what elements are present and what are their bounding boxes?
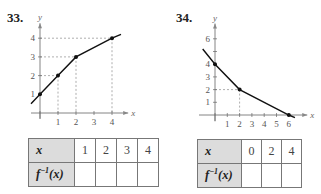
chart33-data-point bbox=[74, 55, 78, 59]
chart33-data-point bbox=[38, 92, 42, 96]
arg-label: (x) bbox=[49, 168, 64, 182]
chart34-x-arrow-icon bbox=[302, 113, 307, 117]
chart34-y-tick-label: 3 bbox=[206, 72, 211, 82]
row-label-inverse: f−1(x) bbox=[198, 164, 242, 188]
chart34-y-arrow-icon bbox=[213, 24, 217, 29]
chart34-y-tick-label: 2 bbox=[206, 85, 211, 95]
chart33-data-point bbox=[56, 74, 60, 78]
chart34-function-line bbox=[203, 49, 295, 118]
chart34-y-tick-label: 1 bbox=[206, 97, 211, 107]
inverse-cell[interactable] bbox=[242, 164, 262, 188]
chart33-y-tick-label: 1 bbox=[31, 89, 36, 99]
chart34-data-point bbox=[287, 113, 291, 117]
inverse-cell[interactable] bbox=[96, 163, 117, 187]
row-label-x: x bbox=[29, 139, 75, 163]
chart33-x-axis-label: x bbox=[130, 108, 135, 118]
x-cell: 4 bbox=[282, 140, 302, 164]
chart33-x-tick-label: 2 bbox=[74, 117, 79, 127]
table-row-inverse: f−1(x) bbox=[29, 163, 159, 187]
x-cell: 2 bbox=[96, 139, 117, 163]
chart34-data-point bbox=[238, 88, 242, 92]
chart33-x-arrow-icon bbox=[123, 111, 128, 115]
chart34-y-axis-label: y bbox=[212, 13, 217, 23]
row-label-inverse: f−1(x) bbox=[29, 163, 75, 187]
table-34: x 0 2 4 f−1(x) bbox=[197, 139, 302, 188]
chart33-y-tick-label: 3 bbox=[31, 52, 36, 62]
row-label-x: x bbox=[198, 140, 242, 164]
chart34-x-tick-label: 2 bbox=[237, 119, 242, 129]
arg-label: (x) bbox=[218, 169, 233, 183]
inverse-sup: −1 bbox=[40, 166, 49, 175]
chart34-y-tick-label: 6 bbox=[206, 34, 211, 44]
inverse-cell[interactable] bbox=[282, 164, 302, 188]
x-cell: 2 bbox=[262, 140, 282, 164]
chart34-x-tick-label: 3 bbox=[250, 119, 255, 129]
x-cell: 1 bbox=[75, 139, 96, 163]
chart34-x-tick-label: 6 bbox=[287, 119, 292, 129]
inverse-cell[interactable] bbox=[138, 163, 159, 187]
chart34-x-tick-label: 1 bbox=[225, 119, 230, 129]
x-cell: 3 bbox=[117, 139, 138, 163]
inverse-cell[interactable] bbox=[117, 163, 138, 187]
chart33-data-point bbox=[110, 36, 114, 40]
chart33-x-tick-label: 4 bbox=[110, 117, 115, 127]
inverse-cell[interactable] bbox=[75, 163, 96, 187]
chart34-x-tick-label: 4 bbox=[262, 119, 267, 129]
chart33-y-tick-label: 2 bbox=[31, 71, 36, 81]
chart34-x-axis-label: x bbox=[309, 110, 314, 120]
chart34-y-tick-label: 4 bbox=[206, 59, 211, 69]
chart33-y-tick-label: 4 bbox=[31, 33, 36, 43]
chart33-y-axis-label: y bbox=[37, 12, 42, 22]
chart33-x-tick-label: 1 bbox=[56, 117, 61, 127]
x-cell: 4 bbox=[138, 139, 159, 163]
x-cell: 0 bbox=[242, 140, 262, 164]
table-row-inverse: f−1(x) bbox=[198, 164, 302, 188]
inverse-sup: −1 bbox=[209, 167, 218, 176]
table-row-x: x 1 2 3 4 bbox=[29, 139, 159, 163]
table-33: x 1 2 3 4 f−1(x) bbox=[28, 138, 159, 187]
inverse-cell[interactable] bbox=[262, 164, 282, 188]
chart34-data-point bbox=[213, 62, 217, 66]
chart34-x-tick-label: 5 bbox=[274, 119, 279, 129]
table-row-x: x 0 2 4 bbox=[198, 140, 302, 164]
chart33-y-arrow-icon bbox=[38, 23, 42, 28]
chart33-x-tick-label: 3 bbox=[92, 117, 97, 127]
